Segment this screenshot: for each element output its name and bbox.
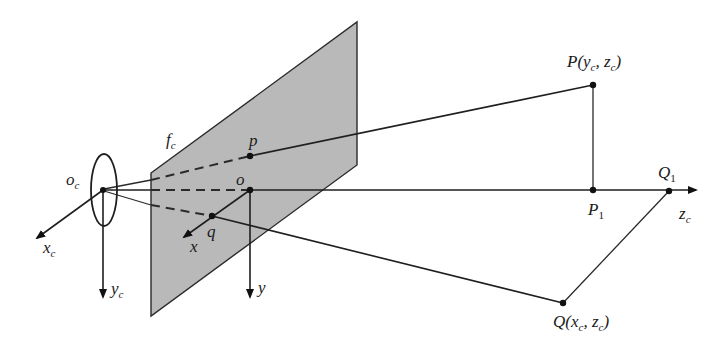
point-P1 [590,187,596,193]
label-xc: xc [42,238,56,259]
label-o: o [236,170,245,189]
label-q: q [207,222,216,241]
point-Q1 [666,188,672,194]
point-p [247,153,253,159]
point-o [247,187,253,193]
ray-to-q-outer [104,191,151,205]
label-Q: Q(xc, zc) [553,312,609,333]
label-Q1: Q1 [658,163,676,184]
label-x: x [189,237,198,256]
ray-to-p-outer [104,180,151,189]
label-fc: fc [166,130,176,151]
label-p: p [248,131,258,150]
label-P1: P1 [587,200,604,221]
label-zc: zc [678,204,691,225]
label-yc: yc [109,279,124,300]
Q-to-Q1-line [563,191,669,303]
lens-rays [104,180,151,205]
projection-diagram: oc xc yc fc p o q x y P(yc, zc) P1 Q1 zc… [0,0,722,347]
point-P [590,82,596,88]
label-P: P(yc, zc) [566,52,622,73]
label-y: y [256,278,266,297]
image-plane [151,22,357,316]
camera-x-axis [37,190,103,238]
point-Oc [100,187,106,193]
point-q [209,213,215,219]
label-oc: oc [66,170,80,191]
point-Q [560,300,566,306]
